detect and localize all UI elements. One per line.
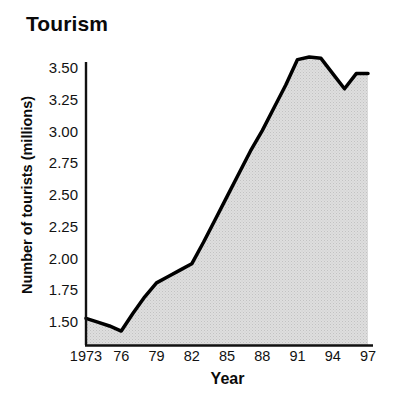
x-tick-label: 91 [289, 348, 305, 364]
x-tick-label: 1973 [70, 348, 102, 364]
x-tick-label: 76 [113, 348, 129, 364]
tourism-chart-figure: Tourism Number of tourists (millions) 1.… [0, 0, 394, 405]
x-tick-label-group: 19737679828588919497 [0, 0, 394, 405]
x-tick-label: 79 [148, 348, 164, 364]
x-tick-label: 97 [360, 348, 376, 364]
x-tick-label: 85 [219, 348, 235, 364]
x-tick-label: 88 [254, 348, 270, 364]
x-axis-title: Year [85, 370, 370, 388]
x-tick-label: 82 [184, 348, 200, 364]
x-tick-label: 94 [325, 348, 341, 364]
